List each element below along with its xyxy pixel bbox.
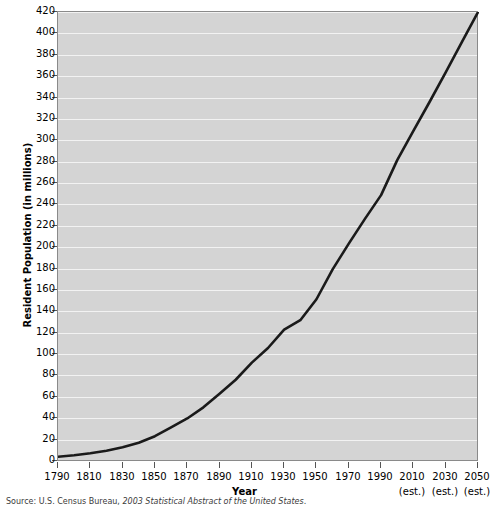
x-axis-tick	[380, 462, 381, 468]
x-axis-tick	[122, 462, 123, 468]
y-axis-tick-label: 160	[36, 284, 55, 294]
source-publication: 2003 Statistical Abstract of the United …	[122, 497, 303, 506]
x-axis-tick	[477, 462, 478, 468]
y-axis-tick-label: 320	[36, 113, 55, 123]
data-line-layer	[58, 12, 477, 460]
y-axis-tick-label: 380	[36, 49, 55, 59]
x-axis-tick	[445, 462, 446, 468]
y-axis-tick-label: 240	[36, 198, 55, 208]
y-axis-tick-label: 60	[42, 391, 55, 401]
x-axis-tick	[412, 462, 413, 468]
x-axis-tick	[348, 462, 349, 468]
population-line	[58, 12, 478, 457]
x-axis-tick	[219, 462, 220, 468]
x-axis-tick	[251, 462, 252, 468]
x-axis-tick	[154, 462, 155, 468]
y-axis-tick-label: 200	[36, 241, 55, 251]
y-axis-tick-label: 0	[49, 455, 55, 465]
y-axis-tick-label: 180	[36, 263, 55, 273]
x-axis-tick	[283, 462, 284, 468]
y-axis-title: Resident Population (in millions)	[22, 148, 33, 328]
x-axis-tick	[57, 462, 58, 468]
y-axis-tick-label: 360	[36, 70, 55, 80]
x-axis-tick	[89, 462, 90, 468]
y-axis-tick-label: 20	[42, 434, 55, 444]
y-axis-tick-label: 420	[36, 6, 55, 16]
x-axis-tick	[186, 462, 187, 468]
x-axis-tick-label: 2050	[457, 471, 494, 482]
y-axis-tick-label: 220	[36, 220, 55, 230]
y-axis-tick-label: 260	[36, 177, 55, 187]
y-axis-tick-label: 100	[36, 348, 55, 358]
y-axis-tick-label: 120	[36, 327, 55, 337]
y-axis-tick-label: 280	[36, 156, 55, 166]
x-axis-tick	[315, 462, 316, 468]
source-note: Source: U.S. Census Bureau, 2003 Statist…	[6, 497, 306, 506]
y-axis-tick-label: 140	[36, 305, 55, 315]
y-axis-tick-label: 400	[36, 27, 55, 37]
x-axis-title: Year	[0, 486, 489, 497]
y-axis-tick-label: 340	[36, 92, 55, 102]
population-series-svg	[58, 12, 479, 462]
source-prefix: Source: U.S. Census Bureau,	[6, 497, 122, 506]
y-axis-tick-label: 300	[36, 134, 55, 144]
source-suffix: .	[304, 497, 307, 506]
plot-area	[57, 11, 478, 461]
y-axis-tick-label: 40	[42, 412, 55, 422]
y-axis-tick-label: 80	[42, 369, 55, 379]
